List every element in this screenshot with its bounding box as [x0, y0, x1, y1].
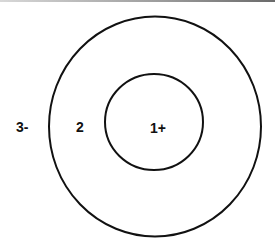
concentric-circles-diagram: 3- 2 1+ [0, 0, 275, 252]
label-outside-zone: 3- [16, 119, 29, 135]
label-inner-zone: 1+ [150, 120, 166, 136]
label-middle-zone: 2 [76, 119, 84, 135]
